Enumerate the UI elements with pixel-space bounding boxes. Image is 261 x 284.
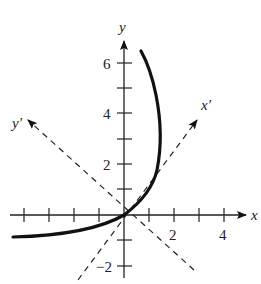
x-prime-axis bbox=[78, 120, 197, 280]
y-tick-label-2: 2 bbox=[103, 157, 111, 173]
chart-canvas: y x x′ y′ 6 4 2 −2 2 4 bbox=[0, 0, 261, 284]
x-tick-label-2: 2 bbox=[169, 227, 177, 243]
y-tick-label-6: 6 bbox=[103, 56, 111, 72]
rotated-axes-figure: y x x′ y′ 6 4 2 −2 2 4 bbox=[0, 0, 261, 284]
curve bbox=[13, 51, 160, 237]
x-axis-label: x bbox=[250, 207, 258, 223]
x-tick-label-4: 4 bbox=[219, 227, 227, 243]
x-prime-label: x′ bbox=[200, 97, 212, 113]
y-prime-label: y′ bbox=[10, 115, 23, 131]
y-prime-axis bbox=[28, 120, 194, 270]
y-tick-label-neg2: −2 bbox=[96, 259, 112, 275]
y-tick-label-4: 4 bbox=[103, 106, 111, 122]
y-axis-label: y bbox=[117, 19, 126, 35]
